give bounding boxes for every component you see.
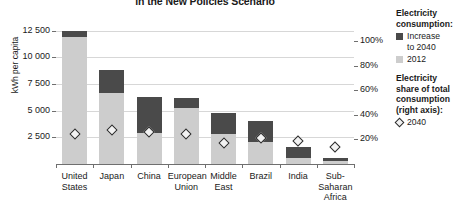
x-axis-category-label: China bbox=[131, 171, 168, 182]
legend-group-1-title-line-2: consumption: bbox=[396, 19, 463, 30]
x-axis-category-line: Japan bbox=[93, 171, 130, 182]
legend-item-2040[interactable]: 2040 bbox=[396, 117, 463, 128]
x-axis-tick-mark bbox=[354, 164, 355, 168]
y-axis-tick-label: 5 000 bbox=[6, 105, 50, 115]
legend-increase-line-2: to 2040 bbox=[407, 42, 436, 52]
y2-axis-tick-mark bbox=[354, 41, 358, 42]
bar-group[interactable] bbox=[174, 20, 199, 164]
x-axis-tick-mark bbox=[168, 164, 169, 168]
y-axis-tick-mark bbox=[52, 137, 56, 138]
x-axis-category-line: India bbox=[280, 171, 317, 182]
y2-axis-tick-label: 40% bbox=[360, 109, 400, 119]
y2-axis-tick-mark bbox=[354, 90, 358, 91]
legend-item-2040-label: 2040 bbox=[407, 117, 463, 128]
y-axis-tick-mark bbox=[52, 84, 56, 85]
legend-group-2: Electricity share of total consumption (… bbox=[396, 73, 463, 128]
x-axis-tick-mark bbox=[242, 164, 243, 168]
x-axis-tick-mark bbox=[93, 164, 94, 168]
y-axis-tick-label: 12 500 bbox=[6, 25, 50, 35]
x-axis-category-line: Union bbox=[168, 182, 205, 193]
chart-legend: Electricity consumption: Increase to 204… bbox=[396, 8, 463, 128]
legend-increase-line-1: Increase bbox=[407, 31, 440, 41]
y2-axis-tick-label: 20% bbox=[360, 133, 400, 143]
y2-axis-tick-mark bbox=[354, 66, 358, 67]
x-axis-tick-mark bbox=[317, 164, 318, 168]
x-axis-category-label: Japan bbox=[93, 171, 130, 182]
legend-group-2-title-line-2: share of total bbox=[396, 84, 463, 95]
legend-swatch-2012-icon bbox=[396, 56, 403, 63]
x-axis-tick-mark bbox=[280, 164, 281, 168]
legend-group-2-title-line-4: (right axis): bbox=[396, 105, 463, 116]
x-axis-category-label: UnitedStates bbox=[56, 171, 93, 192]
y2-axis-tick-mark bbox=[354, 139, 358, 140]
y2-axis-tick-label: 80% bbox=[360, 60, 400, 70]
legend-group-2-title-line-3: consumption bbox=[396, 94, 463, 105]
legend-item-increase-label: Increase to 2040 bbox=[407, 31, 463, 52]
bar-segment-increase-to-2040[interactable] bbox=[99, 70, 124, 92]
x-axis-category-label: Sub-SaharanAfrica bbox=[317, 171, 354, 203]
bar-segment-increase-to-2040[interactable] bbox=[211, 113, 236, 133]
y-axis-tick-mark bbox=[52, 111, 56, 112]
plot-area: 2 5005 0007 50010 00012 50020%40%60%80%1… bbox=[56, 20, 354, 164]
y-axis-label: kWh per capita bbox=[10, 25, 20, 105]
x-axis-category-line: Africa bbox=[317, 192, 354, 203]
bar-group[interactable] bbox=[137, 20, 162, 164]
y-axis-tick-label: 7 500 bbox=[6, 78, 50, 88]
legend-item-2012-label: 2012 bbox=[407, 54, 463, 65]
x-axis-category-line: Brazil bbox=[242, 171, 279, 182]
chart-title: in the New Policies Scenario bbox=[55, 0, 355, 7]
y-axis-tick-label: 2 500 bbox=[6, 131, 50, 141]
bar-segment-2012[interactable] bbox=[62, 37, 87, 164]
bar-group[interactable] bbox=[99, 20, 124, 164]
x-axis-category-line: Middle bbox=[205, 171, 242, 182]
x-axis-category-label: EuropeanUnion bbox=[168, 171, 205, 192]
y2-axis-tick-label: 60% bbox=[360, 84, 400, 94]
y-axis-tick-label: 10 000 bbox=[6, 51, 50, 61]
y2-axis-tick-label: 100% bbox=[360, 35, 400, 45]
x-axis-category-label: Brazil bbox=[242, 171, 279, 182]
legend-diamond-2040-icon bbox=[395, 118, 405, 128]
chart-figure: in the New Policies Scenario kWh per cap… bbox=[0, 0, 463, 205]
x-axis-category-line: States bbox=[56, 182, 93, 193]
y-axis-tick-mark bbox=[52, 57, 56, 58]
x-axis-tick-mark bbox=[131, 164, 132, 168]
x-axis-category-line: Sub- bbox=[317, 171, 354, 182]
x-axis-category-line: Saharan bbox=[317, 182, 354, 193]
bar-group[interactable] bbox=[62, 20, 87, 164]
x-axis-category-label: India bbox=[280, 171, 317, 182]
legend-group-1-title: Electricity consumption: bbox=[396, 8, 463, 29]
x-axis-category-line: European bbox=[168, 171, 205, 182]
y2-axis-tick-mark bbox=[354, 115, 358, 116]
bar-segment-2012[interactable] bbox=[248, 142, 273, 164]
x-axis-category-line: China bbox=[131, 171, 168, 182]
bar-segment-increase-to-2040[interactable] bbox=[323, 158, 348, 162]
x-axis-category-line: United bbox=[56, 171, 93, 182]
x-axis-tick-mark bbox=[205, 164, 206, 168]
x-axis-tick-mark bbox=[56, 164, 57, 168]
bar-segment-increase-to-2040[interactable] bbox=[174, 98, 199, 108]
bar-segment-increase-to-2040[interactable] bbox=[286, 147, 311, 157]
x-axis-category-line: East bbox=[205, 182, 242, 193]
bar-segment-increase-to-2040[interactable] bbox=[62, 31, 87, 37]
legend-group-2-title-line-1: Electricity bbox=[396, 73, 463, 84]
legend-item-increase-to-2040[interactable]: Increase to 2040 bbox=[396, 31, 463, 52]
legend-swatch-increase-icon bbox=[396, 33, 403, 40]
legend-item-2012[interactable]: 2012 bbox=[396, 54, 463, 65]
legend-group-2-title: Electricity share of total consumption (… bbox=[396, 73, 463, 115]
x-axis-category-label: MiddleEast bbox=[205, 171, 242, 192]
y-axis-tick-mark bbox=[52, 31, 56, 32]
legend-group-1-title-line-1: Electricity bbox=[396, 8, 463, 19]
